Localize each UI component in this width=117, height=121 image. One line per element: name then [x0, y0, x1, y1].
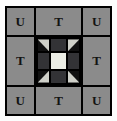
inner-unit-center — [51, 53, 66, 68]
sash-label-bottom-center: T — [54, 94, 63, 107]
sash-label-middle-right: T — [92, 54, 101, 67]
sash-cell-middle-left: T — [7, 37, 34, 84]
triangle-upper-right-icon — [38, 39, 50, 51]
sash-cell-middle-right: T — [83, 37, 110, 84]
quilt-block-diagram: U T U T — [0, 0, 117, 121]
inner-quilt-block — [36, 37, 82, 84]
inner-unit-top-right — [68, 39, 80, 51]
sash-label-bottom-left: U — [16, 94, 25, 107]
sash-cell-top-center: T — [36, 8, 82, 35]
inner-unit-top-left — [38, 39, 50, 51]
sash-cell-bottom-left: U — [7, 87, 34, 114]
inner-unit-top-center — [51, 39, 66, 51]
sash-label-middle-left: T — [16, 54, 25, 67]
inner-unit-middle-left — [38, 53, 50, 68]
inner-unit-middle-right — [68, 53, 80, 68]
sash-cell-top-left: U — [7, 8, 34, 35]
sash-cell-top-right: U — [83, 8, 110, 35]
sash-label-top-left: U — [16, 15, 25, 28]
triangle-upper-left-icon — [68, 39, 80, 51]
sash-label-top-right: U — [92, 15, 101, 28]
triangle-lower-right-icon — [38, 71, 50, 83]
inner-unit-bottom-center — [51, 71, 66, 83]
sash-cell-bottom-center: T — [36, 87, 82, 114]
outer-sashing-grid: U T U T — [5, 6, 112, 116]
sash-label-top-center: T — [54, 15, 63, 28]
inner-unit-bottom-left — [38, 71, 50, 83]
sash-label-bottom-right: U — [92, 94, 101, 107]
sash-cell-bottom-right: U — [83, 87, 110, 114]
inner-unit-bottom-right — [68, 71, 80, 83]
triangle-lower-left-icon — [68, 71, 80, 83]
